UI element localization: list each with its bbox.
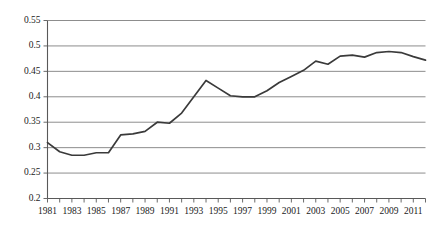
y-axis-tick-label: 0.4 [29, 91, 41, 101]
x-axis-tick-label: 1999 [257, 206, 276, 216]
x-axis-tick-label: 2005 [331, 206, 350, 216]
x-axis-tick-label: 2011 [404, 206, 423, 216]
x-axis-tick-label: 2001 [282, 206, 301, 216]
series-line [48, 52, 426, 156]
x-axis-tick-label: 2007 [355, 206, 374, 216]
x-axis-tick-label: 1983 [62, 206, 81, 216]
y-axis-tick-label: 0.3 [29, 142, 41, 152]
x-axis-tick-label: 1981 [38, 206, 57, 216]
x-axis-tick-label: 1985 [87, 206, 106, 216]
y-axis [44, 21, 48, 199]
x-axis-tick-label: 1989 [136, 206, 155, 216]
chart-canvas: 0.20.250.30.350.40.450.50.55 19811983198… [0, 0, 439, 242]
line-chart: 0.20.250.30.350.40.450.50.55 19811983198… [0, 0, 439, 242]
x-axis-labels: 1981198319851987198919911993199519971999… [38, 206, 423, 216]
x-axis-tick-label: 1997 [233, 206, 252, 216]
x-axis-tick-label: 1995 [209, 206, 228, 216]
data-series [48, 52, 426, 156]
x-axis-tick-label: 2009 [379, 206, 398, 216]
x-axis-tick-label: 1987 [111, 206, 130, 216]
x-axis-tickmarks [48, 199, 426, 203]
y-axis-tick-label: 0.25 [24, 167, 41, 177]
y-axis-labels: 0.20.250.30.350.40.450.50.55 [24, 15, 41, 203]
y-axis-tick-label: 0.2 [29, 193, 41, 203]
y-axis-tick-label: 0.55 [24, 15, 41, 25]
x-axis-tick-label: 1993 [184, 206, 203, 216]
x-axis-tick-label: 2003 [306, 206, 325, 216]
y-axis-tick-label: 0.45 [24, 66, 41, 76]
y-axis-tick-label: 0.35 [24, 116, 41, 126]
y-axis-tick-label: 0.5 [29, 40, 41, 50]
x-axis-tick-label: 1991 [160, 206, 179, 216]
